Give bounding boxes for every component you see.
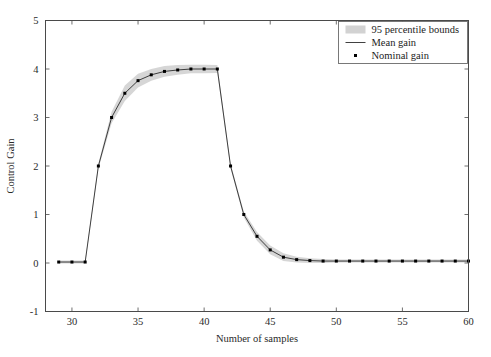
nominal-gain-marker (269, 248, 272, 251)
nominal-gain-marker (427, 260, 430, 263)
nominal-gain-marker (295, 258, 298, 261)
nominal-gain-marker (322, 260, 325, 263)
nominal-gain-marker (335, 260, 338, 263)
legend-label-2: Nominal gain (372, 50, 430, 61)
nominal-gain-marker (150, 73, 153, 76)
nominal-gain-marker (57, 261, 60, 264)
nominal-gain-marker (176, 68, 179, 71)
x-tick-label-45: 45 (265, 316, 276, 327)
nominal-gain-marker (348, 260, 351, 263)
nominal-gain-marker (123, 92, 126, 95)
y-tick-label-4: 4 (33, 64, 39, 75)
nominal-gain-marker (308, 259, 311, 262)
nominal-gain-marker (163, 70, 166, 73)
x-axis-title: Number of samples (216, 333, 298, 344)
x-tick-label-35: 35 (133, 316, 144, 327)
nominal-gain-marker (414, 260, 417, 263)
x-tick-label-55: 55 (397, 316, 408, 327)
x-tick-label-50: 50 (331, 316, 342, 327)
nominal-gain-marker (361, 260, 364, 263)
legend-label-1: Mean gain (372, 37, 417, 48)
y-tick-label--1: -1 (30, 306, 39, 317)
nominal-gain-marker (97, 165, 100, 168)
y-tick-label-1: 1 (33, 209, 38, 220)
nominal-gain-marker (374, 260, 377, 263)
nominal-gain-marker (216, 68, 219, 71)
nominal-gain-marker (137, 79, 140, 82)
nominal-gain-marker (242, 213, 245, 216)
nominal-gain-marker (388, 260, 391, 263)
y-axis-title: Control Gain (5, 138, 16, 194)
nominal-gain-marker (454, 260, 457, 263)
nominal-gain-marker (84, 261, 87, 264)
x-tick-label-30: 30 (67, 316, 78, 327)
x-tick-label-40: 40 (199, 316, 210, 327)
axes-frame (46, 21, 469, 312)
nominal-gain-marker (282, 256, 285, 259)
legend-swatch-percentile-band (346, 26, 366, 34)
nominal-gain-marker (229, 165, 232, 168)
chart-figure: 30354045505560-1012345Number of samplesC… (0, 0, 491, 357)
percentile-band-area (59, 65, 469, 264)
nominal-gain-marker (441, 260, 444, 263)
legend-label-0: 95 percentile bounds (372, 24, 459, 35)
legend-swatch-nominal-marker (354, 54, 357, 57)
nominal-gain-marker (70, 261, 73, 264)
nominal-gain-marker (189, 68, 192, 71)
x-tick-label-60: 60 (463, 316, 474, 327)
nominal-gain-marker (203, 68, 206, 71)
control-gain-line-chart: 30354045505560-1012345Number of samplesC… (0, 0, 491, 357)
y-tick-label-2: 2 (33, 161, 38, 172)
nominal-gain-marker (110, 116, 113, 119)
nominal-gain-marker (256, 235, 259, 238)
nominal-gain-marker (401, 260, 404, 263)
y-tick-label-0: 0 (33, 258, 38, 269)
y-tick-label-3: 3 (33, 112, 38, 123)
y-tick-label-5: 5 (33, 15, 38, 26)
